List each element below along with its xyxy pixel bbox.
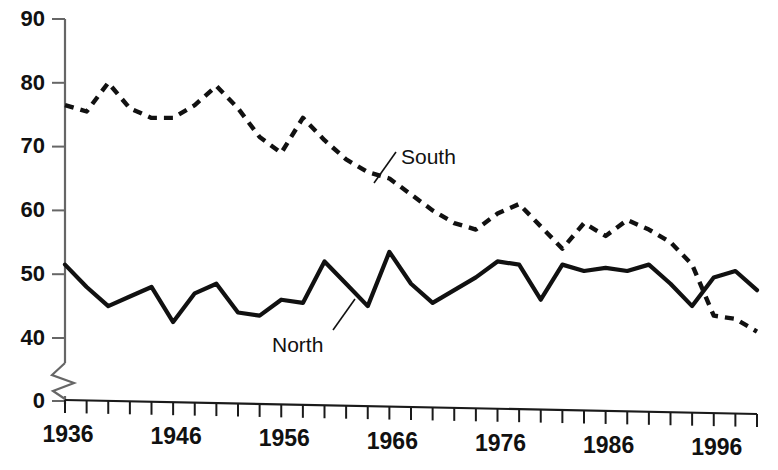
- series-line-north: [65, 252, 757, 322]
- x-tick-label: 1946: [151, 423, 202, 449]
- y-tick-label: 70: [21, 133, 45, 158]
- y-axis-break-zigzag: [52, 363, 74, 399]
- x-tick-label: 1976: [475, 430, 526, 456]
- x-tick-label: 1966: [367, 428, 418, 454]
- x-tick-label: 1956: [259, 425, 310, 451]
- y-tick-label: 40: [21, 325, 45, 350]
- x-axis: 1936194619561966197619861996: [42, 400, 757, 460]
- y-tick-label: 90: [21, 6, 45, 31]
- north-leader-line: [333, 299, 355, 330]
- series-line-south: [65, 83, 757, 332]
- line-chart: 0405060708090 19361946195619661976198619…: [0, 0, 778, 470]
- chart-canvas: 0405060708090 19361946195619661976198619…: [0, 0, 778, 470]
- y-tick-label: 80: [21, 70, 45, 95]
- y-tick-marks: [52, 19, 65, 401]
- y-tick-labels: 0405060708090: [21, 6, 45, 413]
- y-tick-label: 50: [21, 261, 45, 286]
- x-tick-label: 1986: [583, 432, 634, 458]
- x-tick-labels: 1936194619561966197619861996: [42, 421, 742, 460]
- series-label-south: South: [401, 145, 456, 168]
- x-tick-label: 1996: [691, 434, 742, 460]
- y-tick-label: 0: [33, 388, 45, 413]
- y-tick-label: 60: [21, 197, 45, 222]
- series-label-north: North: [272, 333, 323, 356]
- x-tick-label: 1936: [42, 421, 93, 447]
- y-axis: 0405060708090: [21, 6, 74, 413]
